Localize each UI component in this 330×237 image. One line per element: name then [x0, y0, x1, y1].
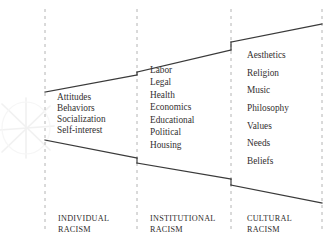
racism-levels-diagram: Attitudes Behaviors Socialization Self-i…: [0, 0, 330, 237]
column-terms-individual: Attitudes Behaviors Socialization Self-i…: [57, 93, 106, 137]
column-terms-cultural: Aesthetics Religion Music Philosophy Val…: [247, 51, 289, 175]
term-item: Economics: [150, 103, 194, 112]
term-item: Health: [150, 91, 194, 100]
footer-label-institutional: INSTITUTIONAL RACISM: [150, 213, 216, 235]
footer-label-individual: INDIVIDUAL RACISM: [58, 213, 109, 235]
term-item: Legal: [150, 78, 194, 87]
term-item: Philosophy: [247, 104, 289, 113]
term-item: Socialization: [57, 115, 106, 124]
footer-label-line2: RACISM: [150, 224, 216, 235]
term-item: Values: [247, 122, 289, 131]
footer-label-line2: RACISM: [247, 224, 292, 235]
term-item: Self-interest: [57, 126, 106, 135]
term-item: Political: [150, 128, 194, 137]
footer-label-line1: CULTURAL: [247, 213, 292, 224]
term-item: Needs: [247, 139, 289, 148]
term-item: Labor: [150, 66, 194, 75]
column-terms-institutional: Labor Legal Health Economics Educational…: [150, 66, 194, 153]
term-item: Aesthetics: [247, 51, 289, 60]
footer-label-cultural: CULTURAL RACISM: [247, 213, 292, 235]
term-item: Housing: [150, 141, 194, 150]
star-watermark: [0, 98, 54, 158]
footer-label-line1: INSTITUTIONAL: [150, 213, 216, 224]
term-item: Educational: [150, 116, 194, 125]
individual-bottom-line: [45, 140, 137, 158]
institutional-bottom-line: [137, 163, 231, 179]
term-item: Attitudes: [57, 93, 106, 102]
cultural-top-line: [231, 24, 322, 42]
cultural-bottom-line: [231, 185, 322, 203]
term-item: Beliefs: [247, 157, 289, 166]
term-item: Religion: [247, 69, 289, 78]
footer-label-line1: INDIVIDUAL: [58, 213, 109, 224]
term-item: Behaviors: [57, 104, 106, 113]
footer-label-line2: RACISM: [58, 224, 109, 235]
individual-top-line: [45, 75, 137, 92]
term-item: Music: [247, 86, 289, 95]
